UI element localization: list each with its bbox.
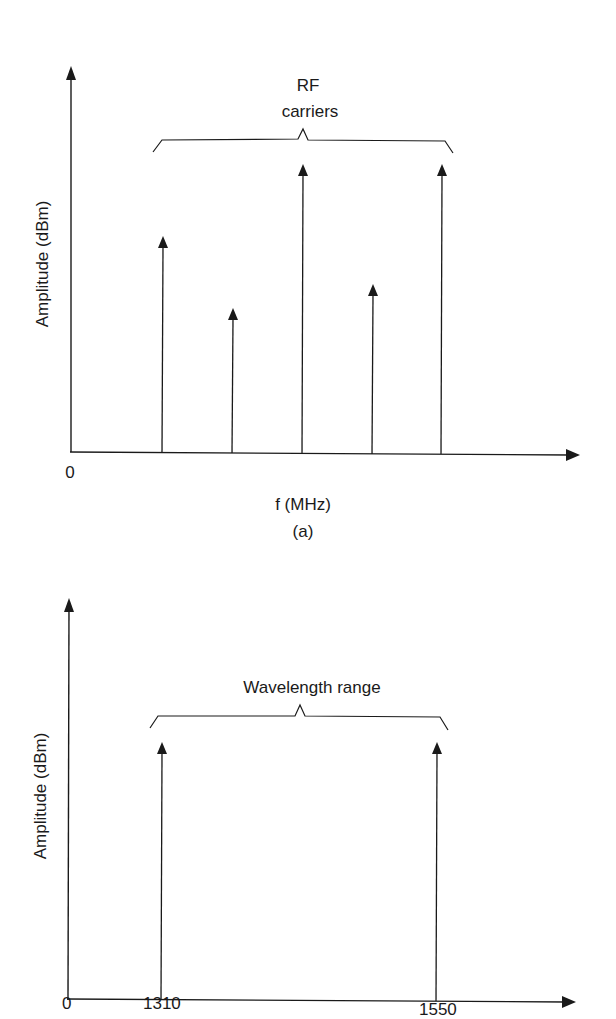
y-axis-label: Amplitude (dBm) xyxy=(31,733,50,860)
y-axis xyxy=(68,604,69,1000)
y-axis-label: Amplitude (dBm) xyxy=(33,201,52,328)
tick-1550: 1550 xyxy=(419,1001,457,1018)
x-axis-label: f (MHz) xyxy=(275,495,331,514)
arrow-head-icon xyxy=(228,308,238,320)
annotation-label: Wavelength range xyxy=(243,678,380,697)
carrier-stems xyxy=(158,164,447,454)
arrow-head-icon xyxy=(158,236,168,248)
x-axis xyxy=(70,452,570,455)
carrier-3 xyxy=(302,176,303,453)
x-axis-arrow-icon xyxy=(562,996,576,1008)
stem-1550 xyxy=(436,754,437,1001)
wavelength-stems xyxy=(157,742,442,1001)
arrow-head-icon xyxy=(437,164,447,176)
annotation-line1: RF xyxy=(297,76,320,95)
brace-icon xyxy=(153,129,453,153)
carrier-4 xyxy=(372,296,373,454)
figure-caption: (a) xyxy=(293,522,314,541)
carrier-1 xyxy=(162,248,163,452)
arrow-head-icon xyxy=(157,742,167,754)
arrow-head-icon xyxy=(298,164,308,176)
stem-1310 xyxy=(161,754,162,1000)
chart-b: Wavelength range Amplitude (dBm) xyxy=(31,598,576,1008)
origin-label: 0 xyxy=(65,463,74,482)
tick-1310: 1310 xyxy=(143,995,181,1012)
x-axis-arrow-icon xyxy=(566,449,580,461)
brace-icon xyxy=(150,705,448,730)
chart-a: RF carriers 0 f (MHz) (a) Amplitude (dBm… xyxy=(33,66,580,541)
x-axis xyxy=(67,999,566,1002)
tick-origin: 0 xyxy=(62,995,71,1012)
carrier-2 xyxy=(232,320,233,453)
y-axis-arrow-icon xyxy=(64,598,74,612)
carrier-5 xyxy=(441,176,442,454)
arrow-head-icon xyxy=(432,742,442,754)
arrow-head-icon xyxy=(368,284,378,296)
y-axis-arrow-icon xyxy=(66,66,76,80)
annotation-line2: carriers xyxy=(282,102,339,121)
